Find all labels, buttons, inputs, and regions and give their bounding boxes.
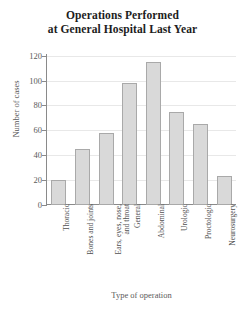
plot-area — [47, 56, 236, 205]
y-tick-label-20: 20 — [14, 176, 42, 185]
x-label-abdominal: Abdominal — [158, 204, 166, 284]
x-label-thoracic: Thoracic — [63, 204, 71, 284]
bar-general — [122, 83, 137, 205]
bar-ears-eyes-nose-and-throat — [99, 133, 114, 205]
bar-neurosurgery — [217, 176, 232, 205]
bar-proctologic — [193, 124, 208, 205]
x-label-neurosurgery: Neurosurgery — [229, 204, 237, 284]
y-tick-label-0: 0 — [14, 201, 42, 210]
bar-thoracic — [51, 180, 66, 205]
x-axis-category-labels: Thoracic Bones and joints Ears, eyes, no… — [47, 206, 236, 286]
x-label-bones-and-joints: Bones and joints — [87, 204, 95, 284]
x-label-ears-eyes-nose-and-throat: Ears, eyes, nose,and throat — [115, 204, 132, 284]
x-label-urologic: Urologic — [181, 204, 189, 284]
x-label-proctologic: Proctologic — [205, 204, 213, 284]
y-axis-title: Number of cases — [11, 54, 21, 164]
bar-chart: Operations Performed at General Hospital… — [0, 0, 245, 313]
x-axis-title: Type of operation — [47, 290, 236, 300]
x-label-general: General — [134, 204, 142, 284]
bar-abdominal — [146, 62, 161, 205]
bar-series — [47, 56, 236, 205]
bar-bones-and-joints — [75, 149, 90, 205]
bar-urologic — [169, 112, 184, 205]
